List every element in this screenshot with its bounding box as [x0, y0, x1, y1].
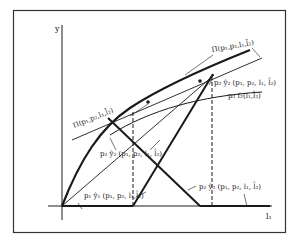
y-axis-label: y: [54, 24, 60, 33]
economics-diagram: y l₁ Π(p₁,p₂,l₁,l̄₂) Π(p₁,p₂,l₁,l̄₂) p₂ …: [0, 0, 295, 242]
leader-p2y2-bottom: [188, 186, 196, 190]
tangent-point-left: [146, 100, 150, 104]
leader-p2y2-mid-a: [110, 138, 116, 150]
label-p2y2-mid: p₂ ŷ₂ (p₁, p₂, l₁, l̄₂): [100, 148, 162, 158]
leader-p2y2-bottom-base: [244, 194, 247, 206]
tangent-point-right: [198, 79, 202, 83]
leader-pi-top-end: [252, 48, 260, 57]
label-p2y2-bottom: p₂ ŷ₂ (p₁, p₂, l₁, l̄₂): [199, 181, 261, 191]
label-p1y1: p₁ ŷ₁ (p₁, p₂, l₁,l̄₂): [84, 190, 144, 200]
label-p2y2-top: p₂ ŷ₂ (p₁, p₂, l₁, l̄₂): [214, 77, 276, 87]
x-axis-label: l₁: [266, 212, 272, 221]
ray-from-origin: [62, 75, 214, 206]
label-p2f2: p₂ f₂(l₁,l̄₂): [228, 90, 261, 100]
leader-p2y2-mid-b: [150, 140, 160, 150]
